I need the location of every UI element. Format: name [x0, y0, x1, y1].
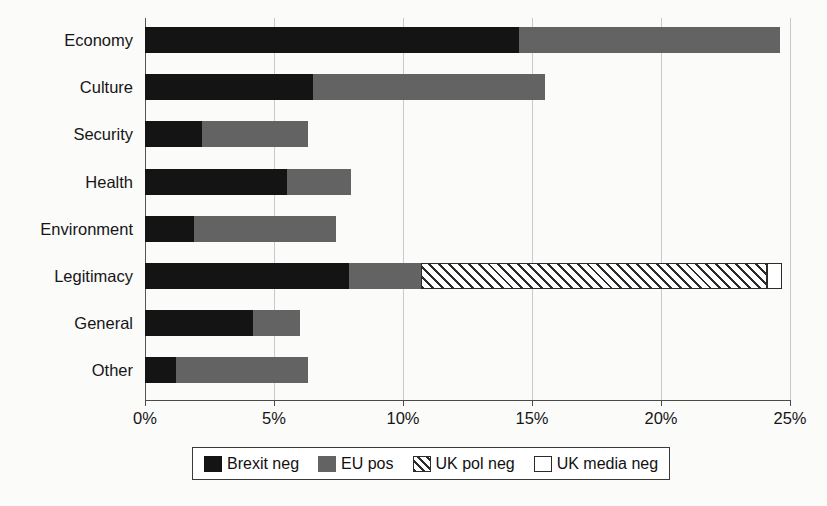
y-axis-category-labels: EconomyCultureSecurityHealthEnvironmentL…: [0, 18, 133, 400]
bar-stack-culture: [145, 74, 790, 100]
legend-swatch-icon: [318, 456, 336, 472]
bar-segment: [313, 74, 545, 100]
y-axis-label-economy: Economy: [0, 27, 133, 53]
bar-segment: [421, 263, 767, 289]
legend-label: UK pol neg: [436, 455, 515, 473]
legend-swatch-icon: [204, 456, 222, 472]
bar-row: [145, 74, 790, 100]
bar-segment: [145, 216, 194, 242]
bar-segment: [145, 27, 519, 53]
bar-segment: [194, 216, 336, 242]
y-axis-label-general: General: [0, 310, 133, 336]
bar-row: [145, 27, 790, 53]
bar-row: [145, 310, 790, 336]
bar-segment: [145, 310, 253, 336]
legend-item: Brexit neg: [204, 455, 299, 473]
x-tick-label-0%: 0%: [133, 409, 157, 428]
x-tick-mark: [532, 400, 533, 406]
bar-segment: [202, 121, 308, 147]
bar-row: [145, 169, 790, 195]
bar-row: [145, 263, 790, 289]
bar-stack-environment: [145, 216, 790, 242]
bar-row: [145, 216, 790, 242]
bar-stack-other: [145, 357, 790, 383]
bar-segment: [145, 263, 349, 289]
x-tick-label-25%: 25%: [773, 409, 806, 428]
x-axis-line: [145, 400, 791, 401]
bar-stack-health: [145, 169, 790, 195]
y-axis-label-environment: Environment: [0, 216, 133, 242]
x-tick-mark: [403, 400, 404, 406]
bar-segment: [145, 121, 202, 147]
y-axis-label-health: Health: [0, 169, 133, 195]
bar-stack-security: [145, 121, 790, 147]
bar-segment: [253, 310, 299, 336]
legend-item: EU pos: [318, 455, 393, 473]
legend-swatch-icon: [534, 456, 552, 472]
legend-label: Brexit neg: [227, 455, 299, 473]
bar-row: [145, 357, 790, 383]
bar-segment: [145, 357, 176, 383]
legend-item: UK media neg: [534, 455, 658, 473]
x-tick-mark: [145, 400, 146, 406]
bar-segment: [287, 169, 352, 195]
legend-label: EU pos: [341, 455, 393, 473]
gridline-25%: [790, 18, 791, 400]
plot-area: [145, 18, 790, 400]
bar-row: [145, 121, 790, 147]
bar-segment: [519, 27, 780, 53]
legend-item: UK pol neg: [413, 455, 515, 473]
bar-chart: EconomyCultureSecurityHealthEnvironmentL…: [0, 0, 827, 506]
legend-label: UK media neg: [557, 455, 658, 473]
bar-segment: [176, 357, 308, 383]
bar-stack-legitimacy: [145, 263, 790, 289]
x-tick-mark: [790, 400, 791, 406]
bar-stack-general: [145, 310, 790, 336]
bar-segment: [145, 169, 287, 195]
bar-segment: [145, 74, 313, 100]
x-tick-label-15%: 15%: [515, 409, 548, 428]
y-axis-label-other: Other: [0, 357, 133, 383]
legend-swatch-icon: [413, 456, 431, 472]
chart-legend: Brexit negEU posUK pol negUK media neg: [192, 447, 670, 480]
bar-segment: [767, 263, 782, 289]
x-tick-label-5%: 5%: [262, 409, 286, 428]
y-axis-label-culture: Culture: [0, 74, 133, 100]
y-axis-label-security: Security: [0, 121, 133, 147]
bar-segment: [349, 263, 421, 289]
y-axis-label-legitimacy: Legitimacy: [0, 263, 133, 289]
x-tick-label-10%: 10%: [386, 409, 419, 428]
x-tick-mark: [274, 400, 275, 406]
x-tick-label-20%: 20%: [644, 409, 677, 428]
bar-stack-economy: [145, 27, 790, 53]
x-tick-mark: [661, 400, 662, 406]
